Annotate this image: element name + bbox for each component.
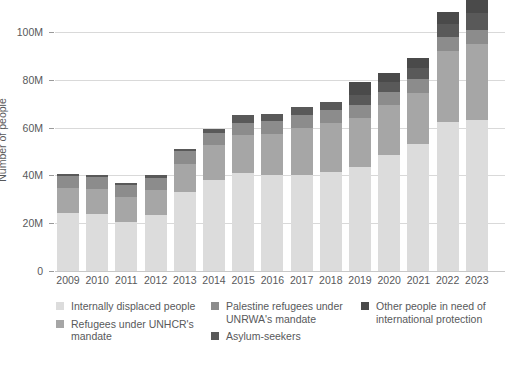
bar-segment-2023-s0[interactable]: [466, 120, 488, 271]
legend-swatch-internally-displaced: [56, 302, 64, 310]
bar-segment-2019-s2[interactable]: [349, 105, 371, 118]
bar-segment-2023-s2[interactable]: [466, 30, 488, 44]
bar-segment-2021-s0[interactable]: [407, 144, 429, 271]
bar-segment-2016-s2[interactable]: [261, 121, 283, 134]
bar-segment-2015-s0[interactable]: [232, 173, 254, 271]
legend-item[interactable]: Internally displaced people: [56, 300, 206, 313]
bar-segment-2020-s3[interactable]: [378, 82, 400, 92]
bar-2021[interactable]: [407, 58, 429, 271]
legend-swatch-palestine-unrwa: [211, 302, 219, 310]
bar-2014[interactable]: [203, 129, 225, 271]
bar-segment-2020-s1[interactable]: [378, 105, 400, 154]
bar-segment-2011-s0[interactable]: [115, 222, 137, 271]
bar-2012[interactable]: [145, 175, 167, 271]
bar-2022[interactable]: [437, 12, 459, 271]
legend-item[interactable]: Refugees under UNHCR's mandate: [56, 318, 206, 343]
legend-column-3: Other people in need of international pr…: [361, 300, 511, 330]
bar-segment-2017-s3[interactable]: [291, 107, 313, 114]
y-tick-mark: [49, 175, 54, 176]
bar-segment-2014-s1[interactable]: [203, 145, 225, 179]
bar-segment-2019-s1[interactable]: [349, 118, 371, 167]
bar-segment-2018-s2[interactable]: [320, 110, 342, 123]
y-tick-mark: [49, 223, 54, 224]
bar-segment-2012-s0[interactable]: [145, 215, 167, 271]
bar-segment-2023-s3[interactable]: [466, 13, 488, 29]
legend-label: Asylum-seekers: [226, 330, 301, 343]
bar-segment-2009-s2[interactable]: [57, 176, 79, 187]
bar-segment-2012-s1[interactable]: [145, 190, 167, 215]
bar-2010[interactable]: [86, 175, 108, 271]
bar-segment-2009-s0[interactable]: [57, 213, 79, 271]
bar-segment-2021-s3[interactable]: [407, 68, 429, 79]
bar-segment-2021-s1[interactable]: [407, 93, 429, 144]
y-tick-label: 80M: [0, 75, 43, 85]
bar-segment-2009-s1[interactable]: [57, 188, 79, 213]
bar-segment-2022-s3[interactable]: [437, 24, 459, 37]
bar-segment-2013-s0[interactable]: [174, 192, 196, 271]
bar-segment-2018-s1[interactable]: [320, 123, 342, 172]
bar-segment-2020-s0[interactable]: [378, 155, 400, 271]
bar-2023[interactable]: [466, 0, 488, 271]
y-tick-label: 40M: [0, 170, 43, 180]
bar-segment-2011-s2[interactable]: [115, 185, 137, 197]
bar-2019[interactable]: [349, 82, 371, 271]
y-tick-mark: [49, 271, 54, 272]
plot-area: 020M40M60M80M100M20092010201120122013201…: [55, 8, 505, 271]
legend-label: Internally displaced people: [71, 300, 195, 313]
bar-segment-2018-s3[interactable]: [320, 102, 342, 110]
legend-item[interactable]: Other people in need of international pr…: [361, 300, 511, 325]
bar-segment-2019-s0[interactable]: [349, 167, 371, 271]
bar-segment-2021-s2[interactable]: [407, 79, 429, 93]
y-tick-mark: [49, 80, 54, 81]
bar-segment-2022-s0[interactable]: [437, 122, 459, 271]
bar-segment-2010-s2[interactable]: [86, 177, 108, 188]
bar-segment-2019-s4[interactable]: [349, 82, 371, 94]
bar-segment-2013-s2[interactable]: [174, 151, 196, 163]
x-axis-line: [55, 271, 505, 272]
bar-segment-2023-s1[interactable]: [466, 44, 488, 120]
bar-segment-2010-s1[interactable]: [86, 189, 108, 214]
legend-label: Refugees under UNHCR's mandate: [71, 318, 206, 343]
bar-segment-2019-s3[interactable]: [349, 95, 371, 105]
bar-segment-2015-s2[interactable]: [232, 123, 254, 135]
bar-2016[interactable]: [261, 114, 283, 271]
bar-2011[interactable]: [115, 183, 137, 271]
bar-2015[interactable]: [232, 115, 254, 271]
bar-segment-2014-s2[interactable]: [203, 133, 225, 145]
bar-2013[interactable]: [174, 149, 196, 271]
bar-segment-2011-s1[interactable]: [115, 197, 137, 222]
bar-segment-2018-s0[interactable]: [320, 172, 342, 271]
bar-segment-2015-s3[interactable]: [232, 115, 254, 123]
bar-segment-2022-s1[interactable]: [437, 51, 459, 121]
legend-swatch-refugees-unhcr: [56, 320, 64, 328]
bar-segment-2020-s4[interactable]: [378, 73, 400, 82]
y-tick-mark: [49, 32, 54, 33]
bar-segment-2022-s2[interactable]: [437, 37, 459, 51]
y-tick-label: 0: [0, 266, 43, 276]
bar-segment-2015-s1[interactable]: [232, 135, 254, 173]
bar-segment-2017-s1[interactable]: [291, 128, 313, 176]
bar-2009[interactable]: [57, 174, 79, 271]
bar-segment-2017-s2[interactable]: [291, 115, 313, 128]
y-tick-label: 60M: [0, 123, 43, 133]
legend-label: Other people in need of international pr…: [376, 300, 511, 325]
y-tick-mark: [49, 128, 54, 129]
legend-swatch-asylum-seekers: [211, 332, 219, 340]
bar-segment-2016-s0[interactable]: [261, 175, 283, 271]
bar-segment-2017-s0[interactable]: [291, 175, 313, 271]
bar-segment-2020-s2[interactable]: [378, 92, 400, 106]
bar-segment-2023-s4[interactable]: [466, 0, 488, 13]
bar-segment-2021-s4[interactable]: [407, 58, 429, 69]
bar-segment-2012-s2[interactable]: [145, 178, 167, 190]
bar-2018[interactable]: [320, 102, 342, 271]
y-tick-label: 100M: [0, 27, 43, 37]
bar-2017[interactable]: [291, 107, 313, 271]
legend-item[interactable]: Asylum-seekers: [211, 330, 391, 343]
bar-segment-2010-s0[interactable]: [86, 214, 108, 271]
bar-segment-2014-s0[interactable]: [203, 180, 225, 271]
bar-segment-2022-s4[interactable]: [437, 12, 459, 24]
bar-2020[interactable]: [378, 73, 400, 271]
bar-segment-2016-s1[interactable]: [261, 134, 283, 175]
bar-segment-2013-s1[interactable]: [174, 164, 196, 192]
legend-swatch-other-protection: [361, 302, 369, 310]
